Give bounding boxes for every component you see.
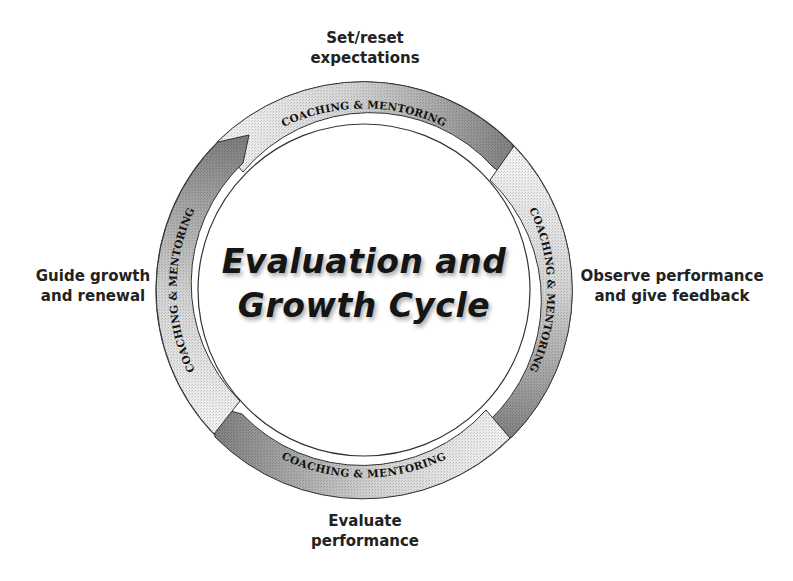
stage-right-line-2: and give feedback bbox=[574, 286, 770, 306]
diagram-title: Evaluation and Growth Cycle bbox=[214, 240, 514, 328]
evaluation-growth-cycle-diagram: COACHING & MENTORING COACHING & MENTORIN… bbox=[0, 0, 793, 581]
stage-right-line-1: Observe performance bbox=[574, 266, 770, 286]
stage-label-observe-performance: Observe performance and give feedback bbox=[574, 266, 770, 306]
title-line-1: Evaluation and bbox=[214, 240, 514, 284]
stage-bottom-line-1: Evaluate bbox=[300, 511, 430, 531]
stage-top-line-1: Set/reset bbox=[305, 28, 425, 48]
stage-top-line-2: expectations bbox=[305, 48, 425, 68]
stage-left-line-2: and renewal bbox=[28, 286, 158, 306]
title-line-2: Growth Cycle bbox=[214, 284, 514, 328]
stage-left-line-1: Guide growth bbox=[28, 266, 158, 286]
stage-bottom-line-2: performance bbox=[300, 531, 430, 551]
stage-label-set-reset-expectations: Set/reset expectations bbox=[305, 28, 425, 68]
stage-label-evaluate-performance: Evaluate performance bbox=[300, 511, 430, 551]
stage-label-guide-growth: Guide growth and renewal bbox=[28, 266, 158, 306]
